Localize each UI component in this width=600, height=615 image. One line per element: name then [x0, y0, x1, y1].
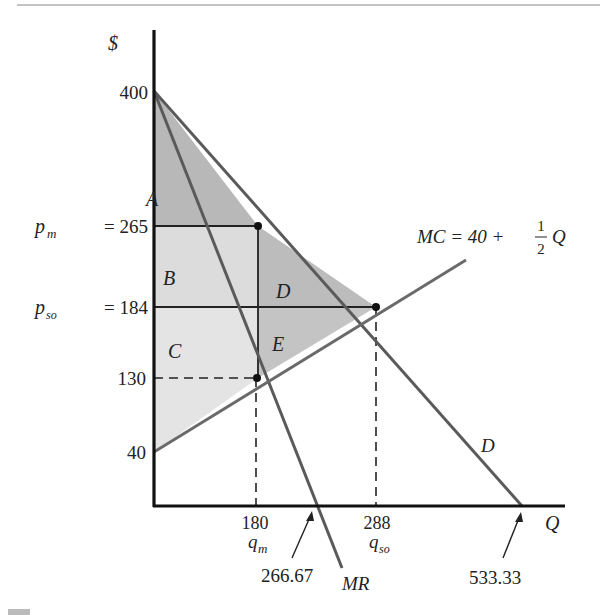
y-tick-400: 400: [120, 82, 149, 103]
arrow-line: [292, 517, 310, 558]
region-c-label: C: [168, 340, 182, 362]
qm-subscript: m: [258, 541, 267, 556]
qso-subscript: so: [379, 542, 390, 556]
pso-value: = 184: [104, 297, 148, 318]
mc-frac-num: 1: [537, 218, 545, 234]
region-b-label: B: [163, 267, 175, 289]
mc-label-q: Q: [552, 226, 566, 247]
demand-label: D: [480, 435, 495, 456]
pm-symbol: p: [33, 215, 45, 238]
d-intercept-label: 533.33: [469, 567, 521, 588]
arrow-line: [503, 518, 519, 558]
y-tick-pm: p m = 265: [33, 215, 148, 241]
pm-value: = 265: [104, 216, 148, 237]
x-tick-qm: q m: [248, 531, 267, 556]
mr-label: MR: [341, 573, 370, 594]
y-tick-pso: p so = 184: [33, 296, 148, 322]
mc-at-qm-point: [253, 374, 261, 382]
region-a-label: A: [144, 188, 159, 210]
mr-intercept-arrow: [292, 511, 314, 558]
monopoly-point: [254, 222, 262, 230]
y-axis-label: $: [108, 32, 118, 54]
pso-symbol: p: [33, 296, 45, 319]
mc-label-text: MC = 40 +: [416, 226, 504, 247]
region-c-fill: [154, 307, 258, 452]
x-tick-288: 288: [364, 513, 391, 533]
d-intercept-arrow: [503, 512, 523, 558]
social-optimum-point: [372, 303, 380, 311]
pso-subscript: so: [46, 308, 57, 322]
y-tick-130: 130: [118, 368, 147, 389]
caption-fragment: [8, 609, 30, 615]
mc-frac-den: 2: [537, 241, 545, 257]
qm-symbol: q: [248, 531, 258, 552]
y-tick-40: 40: [127, 442, 146, 463]
mc-label: MC = 40 + 1 2 Q: [416, 218, 566, 257]
region-d-label: D: [275, 280, 291, 302]
pm-subscript: m: [47, 226, 56, 241]
region-e-label: E: [271, 333, 284, 355]
x-axis-label: Q: [545, 512, 560, 534]
economics-diagram: $ Q 400 p m = 265 p so = 184 130 40 A B …: [0, 0, 600, 615]
arrow-head-icon: [306, 511, 314, 521]
x-tick-qso: q so: [369, 531, 390, 556]
x-tick-180: 180: [242, 513, 269, 533]
mc-label-main: MC = 40 +: [416, 226, 504, 247]
qso-symbol: q: [369, 531, 379, 552]
mr-intercept-label: 266.67: [261, 565, 313, 586]
arrow-head-icon: [515, 512, 523, 522]
region-a-fill: [154, 91, 258, 226]
